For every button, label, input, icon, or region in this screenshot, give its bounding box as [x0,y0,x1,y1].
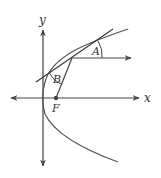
x-axis-label: x [144,91,151,105]
parabola [43,29,128,162]
focus-label: F [51,102,60,115]
focus-point [54,96,58,100]
angle-a-label: A [91,45,100,58]
parabola-diagram: y x F A B [0,0,161,178]
y-axis-label: y [38,13,46,27]
angle-b-label: B [52,73,61,86]
